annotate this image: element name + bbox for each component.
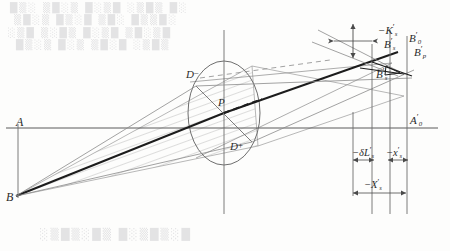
label-image-A0: A′0 bbox=[410, 112, 422, 127]
label-object-B: B bbox=[6, 190, 13, 205]
ray-diagram-svg bbox=[0, 0, 450, 251]
label-pupil-upper-D-minus: D− bbox=[186, 68, 199, 80]
label-image-B0: B′0 bbox=[409, 30, 421, 45]
pupil-lower-sign: + bbox=[238, 140, 243, 150]
dashed-aux-upper bbox=[200, 60, 330, 78]
label-image-Bp: B′p bbox=[414, 44, 426, 59]
figure-canvas: █▒░ ▒█░▒ █░▒█ ░▒█▒ █░ ▒█░▒ █▒░█ ▒█░ █▒▒█… bbox=[0, 0, 450, 251]
label-pupil-lower-D-plus: D+ bbox=[230, 140, 243, 152]
pupil-upper-sign: − bbox=[194, 68, 199, 78]
hatched-beam-cone bbox=[16, 66, 258, 196]
label-dimension-delta-L-s: −δL′s bbox=[352, 146, 374, 159]
label-image-Bs-lower: B′s bbox=[376, 66, 387, 81]
label-coma-K-s: −K′s bbox=[378, 22, 397, 37]
label-pupil-center-P: P bbox=[218, 96, 225, 108]
label-dimension-X-s: −X′s bbox=[364, 178, 382, 191]
label-dimension-x-s: −x′s bbox=[386, 146, 402, 159]
dimension-X-s bbox=[353, 191, 406, 196]
label-image-Bs-top: B′s bbox=[384, 36, 395, 51]
label-object-A: A bbox=[16, 115, 23, 130]
